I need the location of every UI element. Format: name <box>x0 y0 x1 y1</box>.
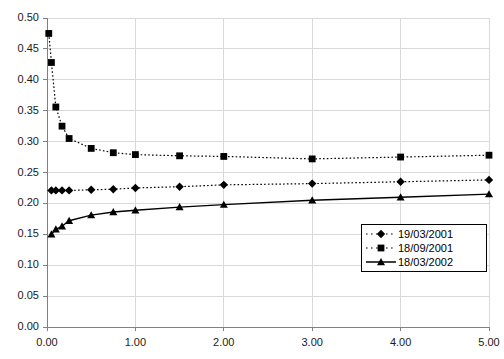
data-marker-square <box>66 135 73 142</box>
y-axis-tick-label: 0.05 <box>3 289 39 301</box>
data-marker-square <box>132 151 139 158</box>
x-axis-tick-label: 1.00 <box>115 336 155 348</box>
legend-marker-square-icon <box>365 242 397 254</box>
data-marker-diamond <box>131 184 139 192</box>
y-axis-tick-label: 0.40 <box>3 73 39 85</box>
x-axis-tick-label: 4.00 <box>381 336 421 348</box>
data-marker-square <box>220 153 227 160</box>
legend-marker-diamond-icon <box>365 228 397 240</box>
y-axis-tick-label: 0.45 <box>3 42 39 54</box>
data-marker-diamond <box>109 185 117 193</box>
series-line <box>49 33 489 158</box>
data-marker-square <box>52 104 59 111</box>
data-marker-diamond <box>485 176 493 184</box>
y-axis-tick-label: 0.35 <box>3 104 39 116</box>
legend-label: 19/03/2001 <box>397 228 453 240</box>
y-axis-tick-label: 0.25 <box>3 166 39 178</box>
data-marker-square <box>59 123 66 130</box>
y-axis-tick-label: 0.15 <box>3 227 39 239</box>
data-marker-diamond <box>220 181 228 189</box>
data-marker-diamond <box>377 230 385 238</box>
series-1 <box>47 176 493 195</box>
data-marker-square <box>397 154 404 161</box>
series-2 <box>45 30 492 162</box>
data-marker-diamond <box>65 186 73 194</box>
data-marker-diamond <box>175 183 183 191</box>
x-axis-tick-label: 0.00 <box>27 336 67 348</box>
data-marker-square <box>176 152 183 159</box>
x-axis-tick-label: 5.00 <box>469 336 504 348</box>
data-marker-square <box>45 30 52 37</box>
data-marker-diamond <box>308 179 316 187</box>
data-marker-square <box>486 152 493 159</box>
x-axis-tick-label: 2.00 <box>204 336 244 348</box>
legend-label: 18/03/2002 <box>397 256 453 268</box>
data-marker-square <box>378 245 385 252</box>
data-marker-square <box>309 156 316 163</box>
legend-item-18/03/2002[interactable]: 18/03/2002 <box>365 255 482 269</box>
legend-label: 18/09/2001 <box>397 242 453 254</box>
data-marker-square <box>48 59 55 66</box>
chart-legend: 19/03/200118/09/200118/03/2002 <box>361 224 487 272</box>
y-axis-tick-label: 0.50 <box>3 11 39 23</box>
data-marker-square <box>88 145 95 152</box>
legend-item-18/09/2001[interactable]: 18/09/2001 <box>365 241 482 255</box>
y-axis-tick-label: 0.00 <box>3 320 39 332</box>
y-axis-tick-label: 0.20 <box>3 196 39 208</box>
y-axis-tick-label: 0.10 <box>3 258 39 270</box>
legend-item-19/03/2001[interactable]: 19/03/2001 <box>365 227 482 241</box>
data-marker-diamond <box>87 186 95 194</box>
y-axis-tick-label: 0.30 <box>3 135 39 147</box>
legend-marker-triangle-icon <box>365 256 397 268</box>
data-marker-square <box>110 149 117 156</box>
data-marker-diamond <box>396 178 404 186</box>
x-axis-tick-label: 3.00 <box>292 336 332 348</box>
